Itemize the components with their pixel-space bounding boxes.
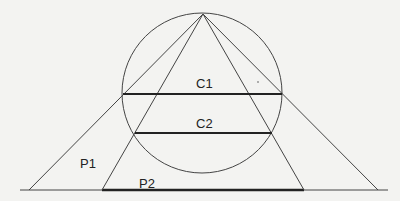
dot-marker <box>257 81 259 83</box>
label-p2: P2 <box>139 176 155 191</box>
label-c2: C2 <box>196 116 213 131</box>
label-c1: C1 <box>196 76 213 91</box>
geometry-diagram: C1 C2 P1 P2 <box>0 0 400 201</box>
inner-line-left <box>102 14 203 190</box>
inner-line-right <box>203 14 304 190</box>
outer-line-right <box>203 14 378 190</box>
outer-line-left <box>29 14 203 190</box>
label-p1: P1 <box>80 156 96 171</box>
